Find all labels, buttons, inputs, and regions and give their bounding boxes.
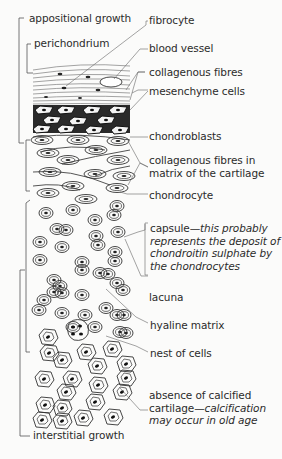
label-collagenous-fibres-matrix: collagenous fibres in matrix of the cart… [149,154,264,179]
label-absence-line3: may occur in old age [149,414,257,426]
bracket-appositional-growth [19,18,24,143]
fibrocyte-nuclei [44,73,100,99]
label-perichondrium: perichondrium [34,37,109,50]
chondrocytes-matrix [32,201,133,339]
label-capsule-line1: this probably [200,222,268,234]
bracket-perichondrium [27,44,33,73]
label-absence-line2-prefix: cartilage— [149,402,205,414]
label-capsule-line2: represents the deposit of [150,235,280,247]
label-collagenous-fibres-matrix-line2: matrix of the cartilage [149,167,264,180]
label-fibrocyte: fibrocyte [149,14,194,27]
label-mesenchyme-cells: mesenchyme cells [149,85,245,98]
label-interstitial-growth: interstitial growth [33,429,124,442]
bracket-chondroblast-zone [26,140,30,191]
label-capsule-prefix: capsule— [150,222,200,234]
label-collagenous-fibres-matrix-line1: collagenous fibres in [149,154,264,167]
label-absence-line1: absence of calcified [149,389,266,402]
bracket-interstitial-growth [20,270,30,436]
label-appositional-growth: appositional growth [29,12,131,25]
label-hyaline-matrix: hyaline matrix [150,319,224,332]
chondrocytes-lower [33,329,136,429]
label-absence-of-calcified: absence of calcified cartilage—calcifica… [149,389,266,427]
label-chondroblasts: chondroblasts [149,130,221,143]
label-blood-vessel: blood vessel [149,42,213,55]
label-capsule-line3: chondroitin sulphate by [150,247,272,259]
label-chondrocyte: chondrocyte [149,189,213,202]
chondroblasts [31,136,135,181]
label-lacuna: lacuna [149,291,183,304]
capsule-bracket [145,223,148,275]
label-capsule-line4: the chondrocytes [150,260,240,272]
blood-vessel-shape [100,77,122,87]
label-nest-of-cells: nest of cells [150,347,212,360]
label-collagenous-fibres: collagenous fibres [149,66,243,79]
label-absence-line2-italic: calcification [205,402,266,414]
label-capsule: capsule—this probably represents the dep… [150,222,280,272]
bracket-chondrocyte-zone [26,200,30,352]
